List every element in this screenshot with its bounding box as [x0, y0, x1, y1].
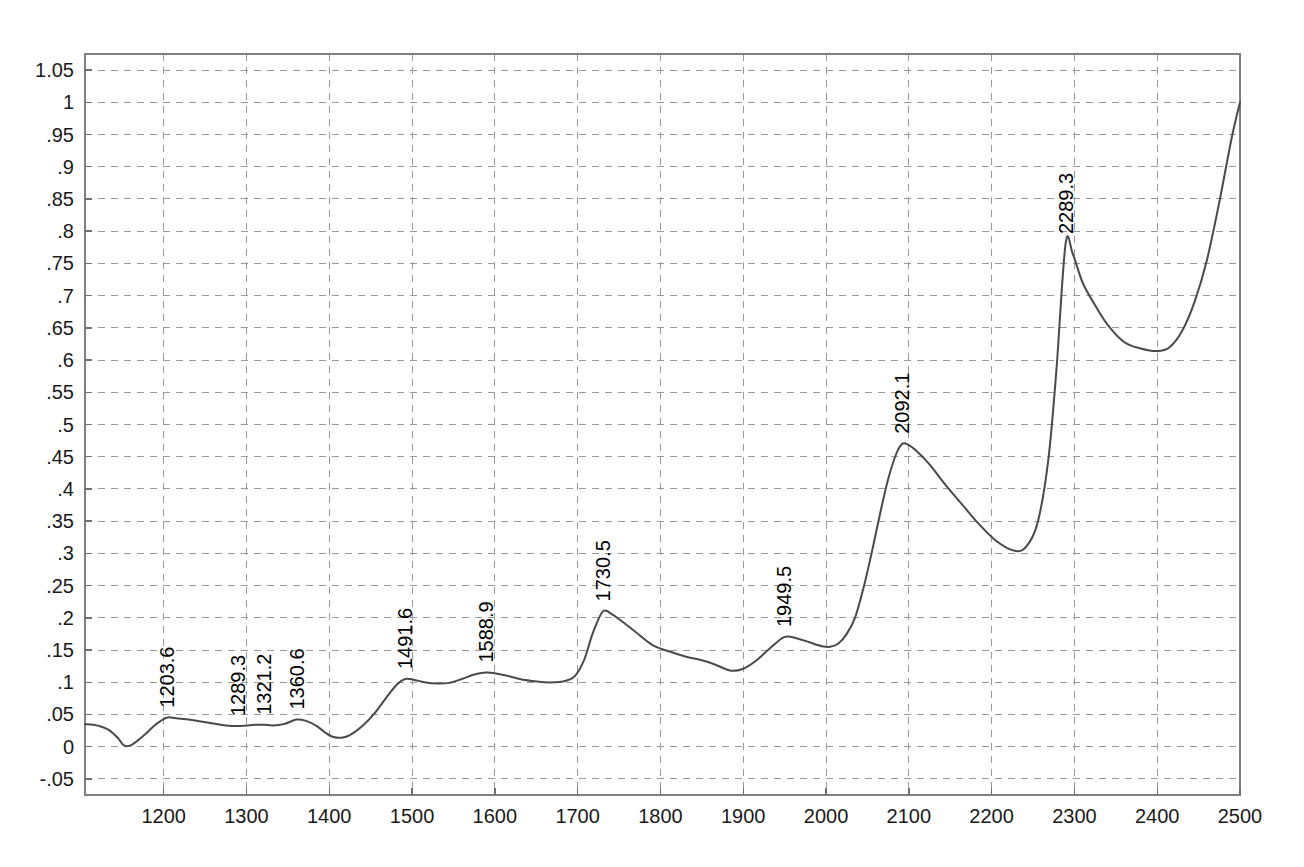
y-axis-tick-label: .1 — [57, 671, 74, 693]
peak-annotation-label: 2289.3 — [1055, 173, 1077, 234]
y-axis-tick-label: .3 — [57, 542, 74, 564]
y-axis-tick-label: .25 — [46, 575, 74, 597]
y-axis-tick-label: .4 — [57, 478, 74, 500]
x-axis-tick-label: 2100 — [887, 805, 932, 827]
y-axis-tick-label: .8 — [57, 220, 74, 242]
spectrum-plot-svg: -.050.05.1.15.2.25.3.35.4.45.5.55.6.65.7… — [0, 0, 1304, 867]
peak-annotation-label: 1588.9 — [475, 601, 497, 662]
x-axis-tick-label: 1200 — [141, 805, 186, 827]
x-axis-tick-label: 1500 — [390, 805, 435, 827]
y-axis-tick-label: 1 — [63, 91, 74, 113]
x-axis-tick-label: 1700 — [555, 805, 600, 827]
y-axis-tick-label: .5 — [57, 414, 74, 436]
peak-annotation-label: 1321.2 — [253, 654, 275, 715]
y-axis-tick-label: .55 — [46, 381, 74, 403]
y-axis-tick-label: 1.05 — [35, 59, 74, 81]
y-axis-tick-label: .2 — [57, 607, 74, 629]
y-axis-tick-label: .85 — [46, 188, 74, 210]
peak-annotation-label: 1203.6 — [156, 647, 178, 708]
x-axis-tick-label: 1600 — [473, 805, 518, 827]
y-axis-tick-label: .6 — [57, 349, 74, 371]
y-axis-tick-label: 0 — [63, 736, 74, 758]
peak-annotation-label: 1730.5 — [592, 540, 614, 601]
y-axis-tick-label: .45 — [46, 446, 74, 468]
x-axis-tick-label: 2200 — [969, 805, 1014, 827]
spectrum-chart: -.050.05.1.15.2.25.3.35.4.45.5.55.6.65.7… — [0, 0, 1304, 867]
y-axis-tick-label: .35 — [46, 510, 74, 532]
peak-annotation-label: 1289.3 — [227, 655, 249, 716]
x-axis-tick-label: 2400 — [1135, 805, 1180, 827]
x-axis-tick-label: 1800 — [638, 805, 683, 827]
y-axis-tick-label: .15 — [46, 639, 74, 661]
y-axis-tick-label: .9 — [57, 156, 74, 178]
peak-annotation-label: 1360.6 — [286, 648, 308, 709]
y-axis-tick-label: .75 — [46, 252, 74, 274]
y-axis-tick-label: .05 — [46, 703, 74, 725]
x-axis-tick-label: 1900 — [721, 805, 766, 827]
y-axis-tick-label: .65 — [46, 317, 74, 339]
x-axis-tick-label: 1400 — [307, 805, 352, 827]
y-axis-tick-label: -.05 — [40, 768, 74, 790]
y-axis-tick-label: .95 — [46, 124, 74, 146]
x-axis-tick-label: 2300 — [1052, 805, 1097, 827]
plot-background — [0, 0, 1304, 867]
x-axis-tick-label: 1300 — [224, 805, 269, 827]
peak-annotation-label: 1491.6 — [394, 608, 416, 669]
peak-annotation-label: 2092.1 — [891, 373, 913, 434]
x-axis-tick-label: 2000 — [804, 805, 849, 827]
x-axis-tick-label: 2500 — [1218, 805, 1263, 827]
peak-annotation-label: 1949.5 — [773, 566, 795, 627]
y-axis-tick-label: .7 — [57, 285, 74, 307]
